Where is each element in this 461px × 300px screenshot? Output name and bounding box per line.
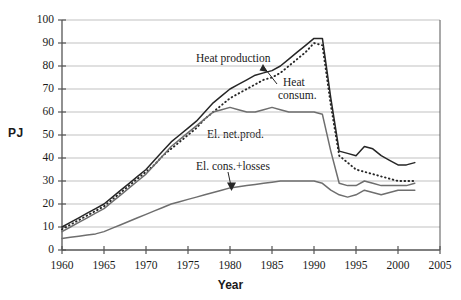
series-line [62,43,415,229]
plot-area [0,0,461,300]
series-line [62,107,415,231]
annotation-leader-lines [227,64,277,191]
chart-container: PJ Year 0102030405060708090100 196019651… [0,0,461,300]
data-series [62,38,415,238]
series-line [62,181,415,239]
